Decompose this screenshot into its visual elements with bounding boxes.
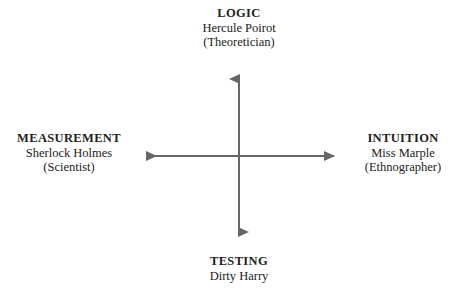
- pole-role-measurement: (Scientist): [4, 160, 134, 175]
- pole-person-intuition: Miss Marple: [348, 146, 458, 161]
- pole-heading-testing: TESTING: [139, 254, 339, 269]
- pole-label-intuition: INTUITION Miss Marple (Ethnographer): [348, 131, 458, 175]
- pole-person-testing: Dirty Harry: [139, 269, 339, 284]
- pole-role-intuition: (Ethnographer): [348, 160, 458, 175]
- pole-person-measurement: Sherlock Holmes: [4, 146, 134, 161]
- pole-heading-logic: LOGIC: [139, 6, 339, 21]
- pole-label-logic: LOGIC Hercule Poirot (Theoretician): [139, 6, 339, 50]
- pole-heading-intuition: INTUITION: [348, 131, 458, 146]
- pole-heading-measurement: MEASUREMENT: [4, 131, 134, 146]
- pole-label-measurement: MEASUREMENT Sherlock Holmes (Scientist): [4, 131, 134, 175]
- pole-label-testing: TESTING Dirty Harry: [139, 254, 339, 283]
- pole-role-logic: (Theoretician): [139, 35, 339, 50]
- pole-person-logic: Hercule Poirot: [139, 21, 339, 36]
- diagram-canvas: LOGIC Hercule Poirot (Theoretician) MEAS…: [0, 0, 459, 297]
